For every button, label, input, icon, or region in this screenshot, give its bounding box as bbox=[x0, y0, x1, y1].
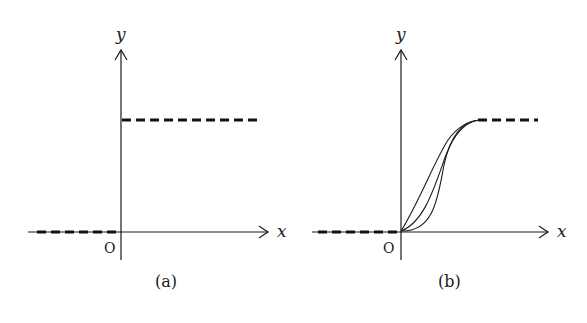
transition-curve-2 bbox=[401, 120, 480, 231]
y-axis-label-b: y bbox=[395, 24, 406, 44]
origin-label-a: O bbox=[104, 240, 115, 256]
panel-b: y x O (b) bbox=[312, 24, 567, 291]
x-axis-label-b: x bbox=[557, 221, 567, 241]
figure-canvas: y x O (a) y x O (b) bbox=[0, 0, 587, 323]
transition-curve-3 bbox=[401, 120, 480, 231]
y-axis-label-a: y bbox=[115, 24, 126, 44]
x-axis-label-a: x bbox=[277, 221, 287, 241]
caption-b: (b) bbox=[438, 272, 461, 291]
caption-a: (a) bbox=[155, 272, 177, 291]
origin-label-b: O bbox=[383, 240, 394, 256]
transition-curve-1 bbox=[401, 120, 480, 231]
panel-a: y x O (a) bbox=[28, 24, 287, 291]
